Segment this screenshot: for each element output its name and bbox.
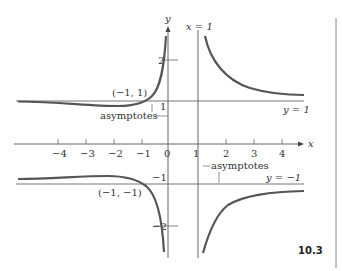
figure-number: 10.3	[298, 245, 323, 256]
point-label-lower: (−1, −1)	[98, 187, 142, 198]
asymptote-ym1-label: y = −1	[265, 172, 301, 183]
curve-lower-left	[18, 176, 164, 252]
y-tick-label-m1: −1	[152, 172, 167, 183]
x-tick-label: 1	[193, 148, 199, 159]
y-tick-label-1: 1	[160, 101, 166, 112]
x-tick-label: −4	[52, 148, 67, 159]
vertical-asymptote-label: x = 1	[186, 21, 213, 32]
x-tick-label: 2	[223, 148, 229, 159]
curve-upper-right	[205, 36, 304, 95]
x-ticks	[58, 139, 282, 144]
y-tick-label-m2: −2	[152, 221, 167, 232]
point-label-upper: (−1, 1)	[112, 87, 147, 98]
x-axis-arrow-icon	[298, 142, 304, 147]
x-tick-label: 0	[164, 148, 170, 159]
asymptotes-label-lower: asymptotes	[211, 160, 269, 171]
x-tick-label: 4	[279, 148, 285, 159]
asymptote-y1-label: y = 1	[282, 104, 310, 115]
x-tick-label: 3	[251, 148, 257, 159]
x-tick-label: −3	[80, 148, 95, 159]
x-axis-label: x	[308, 138, 314, 149]
y-axis-arrow-icon	[166, 26, 171, 32]
asymptotes-label-upper: asymptotes	[100, 110, 158, 121]
x-tick-label: −1	[136, 148, 151, 159]
y-axis-label: y	[164, 13, 171, 24]
x-tick-label: −2	[108, 148, 123, 159]
curve-lower-right	[203, 191, 304, 253]
graph-canvas: x y x = 1 y = 1 y = −1 −4 −3 −2 −1 0 1 2…	[0, 0, 342, 271]
